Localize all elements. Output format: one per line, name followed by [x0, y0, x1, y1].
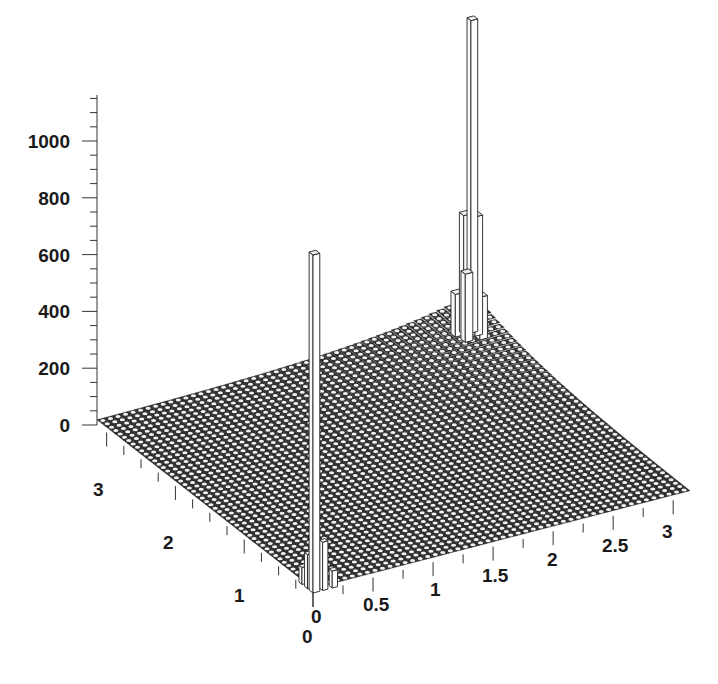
surface-cell-hole — [510, 487, 515, 490]
surface-cell-hole — [410, 360, 415, 363]
surface-cell-hole — [417, 320, 422, 323]
surface-cell-hole — [398, 359, 403, 362]
surface-cell-hole — [527, 436, 532, 439]
surface-cell-hole — [438, 502, 443, 505]
surface-cell-hole — [285, 460, 290, 463]
surface-cell-hole — [236, 509, 241, 512]
surface-cell-hole — [220, 473, 225, 476]
surface-cell-hole — [372, 505, 377, 508]
surface-cell-hole — [338, 510, 343, 513]
surface-cell-hole — [501, 535, 506, 538]
surface-cell-hole — [372, 338, 377, 341]
surface-cell-hole — [357, 343, 362, 346]
surface-cell-hole — [644, 498, 649, 501]
surface-cell-hole — [455, 547, 460, 550]
surface-cell-hole — [442, 406, 447, 409]
surface-cell-hole — [576, 484, 581, 487]
surface-cell-hole — [188, 463, 193, 466]
surface-cell-hole — [451, 378, 456, 381]
surface-cell-hole — [578, 470, 583, 473]
surface-cell-hole — [326, 444, 331, 447]
surface-cell-hole — [489, 502, 494, 505]
surface-cell-hole — [526, 393, 531, 396]
surface-cell-hole — [566, 500, 571, 503]
surface-cell-hole — [490, 511, 495, 514]
surface-cell-hole — [358, 387, 363, 390]
surface-cell-hole — [289, 527, 294, 530]
surface-cell-hole — [150, 442, 155, 445]
surface-cell-hole — [387, 403, 392, 406]
surface-cell-hole — [230, 489, 235, 492]
surface-cell-hole — [164, 429, 169, 432]
surface-cell-hole — [322, 505, 327, 508]
surface-cell-hole — [477, 533, 482, 536]
surface-cell-hole — [475, 354, 480, 357]
surface-cell-hole — [490, 479, 495, 482]
surface-cell-hole — [495, 391, 500, 394]
surface-cell-hole — [446, 532, 451, 535]
surface-cell-hole — [383, 530, 388, 533]
surface-cell-hole — [594, 507, 599, 510]
surface-cell-hole — [473, 474, 478, 477]
surface-cell-hole — [274, 531, 279, 534]
surface-cell-hole — [597, 437, 602, 440]
surface-cell-hole — [442, 440, 447, 443]
surface-cell-hole — [443, 546, 448, 549]
surface-cell-hole — [633, 474, 638, 477]
surface-cell-hole — [638, 486, 643, 489]
surface-cell-hole — [222, 427, 227, 430]
surface-cell-hole — [578, 502, 583, 505]
surface-cell-hole — [501, 341, 506, 344]
surface-cell-hole — [443, 381, 448, 384]
surface-cell-hole — [630, 479, 635, 482]
surface-cell-hole — [332, 530, 337, 533]
surface-cell-hole — [173, 404, 178, 407]
surface-cell-hole — [457, 469, 462, 472]
surface-cell-hole — [478, 541, 483, 544]
surface-cell-hole — [488, 367, 493, 370]
surface-cell-hole — [170, 418, 175, 421]
surface-cell-hole — [483, 424, 488, 427]
surface-cell-hole — [166, 415, 171, 418]
surface-cell-hole — [375, 500, 380, 503]
surface-cell-hole — [384, 409, 389, 412]
surface-cell-hole — [588, 420, 593, 423]
surface-cell-hole — [526, 427, 531, 430]
surface-cell-hole — [459, 454, 464, 457]
x-tick-label-2: 2 — [547, 550, 558, 569]
surface-cell-hole — [363, 466, 368, 469]
surface-cell-hole — [470, 543, 475, 546]
surface-cell-hole — [210, 426, 215, 429]
surface-cell-hole — [247, 438, 252, 441]
surface-cell-hole — [287, 380, 292, 383]
surface-cell-hole — [441, 528, 446, 531]
surface-cell-hole — [412, 545, 417, 548]
surface-cell-hole — [402, 529, 407, 532]
surface-cell-hole — [381, 415, 386, 418]
surface-cell-hole — [381, 448, 386, 451]
surface-cell-hole — [380, 345, 385, 348]
surface-cell-hole — [403, 506, 408, 509]
surface-cell-hole — [581, 431, 586, 434]
surface-cell-hole — [403, 442, 408, 445]
origin-small-bar — [329, 567, 337, 588]
surface-cell-hole — [604, 426, 609, 429]
surface-cell-hole — [608, 462, 613, 465]
surface-cell-hole — [294, 531, 299, 534]
surface-cell-hole — [461, 440, 466, 443]
surface-cell-hole — [482, 341, 487, 344]
surface-cell-hole — [612, 433, 617, 436]
surface-cell-hole — [436, 451, 441, 454]
surface-cell-hole — [511, 431, 516, 434]
surface-cell-hole — [407, 533, 412, 536]
surface-cell-hole — [670, 487, 675, 490]
surface-cell-hole — [322, 384, 327, 387]
surface-cell-hole — [364, 410, 369, 413]
surface-cell-hole — [301, 367, 306, 370]
surface-cell-hole — [493, 407, 498, 410]
surface-cell-hole — [453, 398, 458, 401]
surface-cell-hole — [509, 510, 514, 513]
surface-cell-hole — [331, 391, 336, 394]
surface-cell-hole — [475, 392, 480, 395]
surface-cell-hole — [488, 525, 493, 528]
